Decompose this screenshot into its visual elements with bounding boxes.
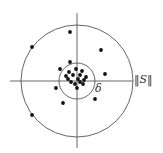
data-point bbox=[82, 78, 86, 82]
data-point bbox=[73, 82, 77, 86]
data-point bbox=[103, 72, 107, 76]
data-point bbox=[74, 67, 78, 71]
data-point bbox=[66, 77, 70, 81]
norm-s-label: ‖S‖ bbox=[134, 73, 153, 86]
data-point bbox=[54, 86, 58, 90]
data-point bbox=[68, 60, 72, 64]
data-point bbox=[58, 67, 62, 71]
data-point bbox=[93, 97, 97, 101]
data-point bbox=[30, 45, 34, 49]
data-point bbox=[78, 73, 82, 77]
delta-label: δ bbox=[95, 82, 102, 95]
data-point bbox=[61, 101, 65, 105]
data-point bbox=[67, 70, 71, 74]
data-point bbox=[30, 113, 34, 117]
data-point bbox=[99, 48, 103, 52]
data-point bbox=[80, 69, 84, 73]
data-point bbox=[68, 30, 72, 34]
data-point bbox=[69, 80, 73, 84]
data-point bbox=[71, 73, 75, 77]
data-point bbox=[75, 86, 79, 90]
data-point bbox=[81, 82, 85, 86]
data-points bbox=[30, 30, 107, 117]
